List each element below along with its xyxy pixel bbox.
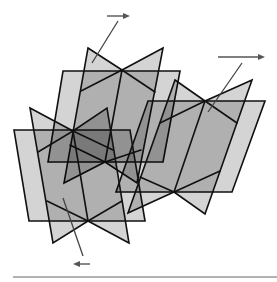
arrow-left-icon: [73, 261, 80, 267]
arrow-right-icon: [258, 54, 265, 60]
arrow-right-icon: [123, 13, 130, 19]
leader-line: [92, 21, 118, 63]
diagram-stage: [0, 0, 277, 282]
intersecting-planes-diagram: [0, 0, 277, 282]
